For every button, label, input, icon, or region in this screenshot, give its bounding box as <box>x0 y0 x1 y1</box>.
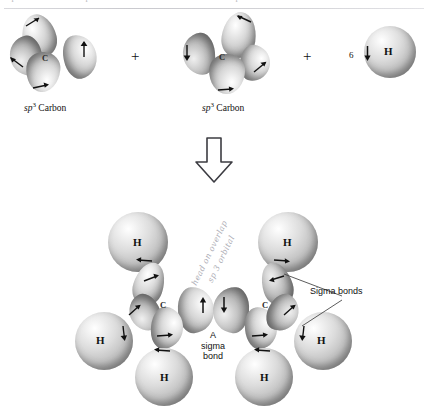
hydrogen-atom-label: H <box>96 334 105 346</box>
spin-arrow-down-icon <box>118 325 130 343</box>
reaction-arrow-icon <box>192 136 236 184</box>
a-sigma-bond-line1: A <box>186 330 240 341</box>
plus-operator-2: + <box>303 48 311 65</box>
header-remnant-2: sp <box>82 0 90 2</box>
spin-arrow-right-icon <box>216 85 236 95</box>
caption-word: Carbon <box>36 103 66 113</box>
hydrogen-atom-label: H <box>160 371 169 383</box>
header-remnant-1: sp <box>8 0 16 2</box>
spin-arrow-up-right-icon <box>127 303 143 317</box>
spin-arrow-down-icon <box>219 296 229 314</box>
spin-arrow-up-icon <box>79 40 89 58</box>
hydrogen-atom-label: H <box>133 236 142 248</box>
figure-canvas: sp sp sp C <box>0 0 428 410</box>
a-sigma-bond-line2: sigma <box>186 341 240 352</box>
carbon-center-label: C <box>160 300 166 310</box>
plus-operator-1: + <box>131 48 139 65</box>
sp3-carbon-left-caption: sp3 Carbon <box>24 101 66 113</box>
hydrogen-count: 6 <box>349 50 354 60</box>
spin-arrow-down-icon <box>363 45 372 62</box>
spin-arrow-up-left-icon <box>9 56 25 69</box>
header-remnant-3: sp <box>232 0 240 2</box>
sigma-bonds-label: Sigma bonds <box>310 286 363 296</box>
spin-arrow-left-icon <box>152 346 172 356</box>
hydrogen-atom-label: H <box>283 236 292 248</box>
spin-arrow-up-right-icon <box>252 60 268 74</box>
caption-word: Carbon <box>214 103 244 113</box>
spin-arrow-up-right-icon <box>24 16 42 28</box>
hydrogen-atom-label: H <box>384 45 393 57</box>
header-divider <box>4 8 424 9</box>
a-sigma-bond-line3: bond <box>186 351 240 362</box>
carbon-center-label: C <box>42 53 48 63</box>
sp3-carbon-right-caption: sp3 Carbon <box>202 101 244 113</box>
spin-arrow-right-icon <box>155 331 175 341</box>
spin-arrow-down-icon <box>182 44 192 62</box>
spin-arrow-right-icon <box>250 331 270 341</box>
a-sigma-bond-label: A sigma bond <box>186 330 240 362</box>
spin-arrow-right-icon <box>31 82 51 92</box>
spin-arrow-up-right-icon <box>142 272 162 283</box>
hydrogen-atom-label: H <box>317 334 326 346</box>
carbon-center-label: C <box>262 300 268 310</box>
hydrogen-atom-label: H <box>260 371 269 383</box>
spin-arrow-left-icon <box>252 346 272 356</box>
spin-arrow-left-icon <box>235 14 253 25</box>
carbon-center-label: C <box>219 52 225 62</box>
sigma-bonds-leader-line <box>280 268 358 330</box>
spin-arrow-up-icon <box>198 296 208 314</box>
